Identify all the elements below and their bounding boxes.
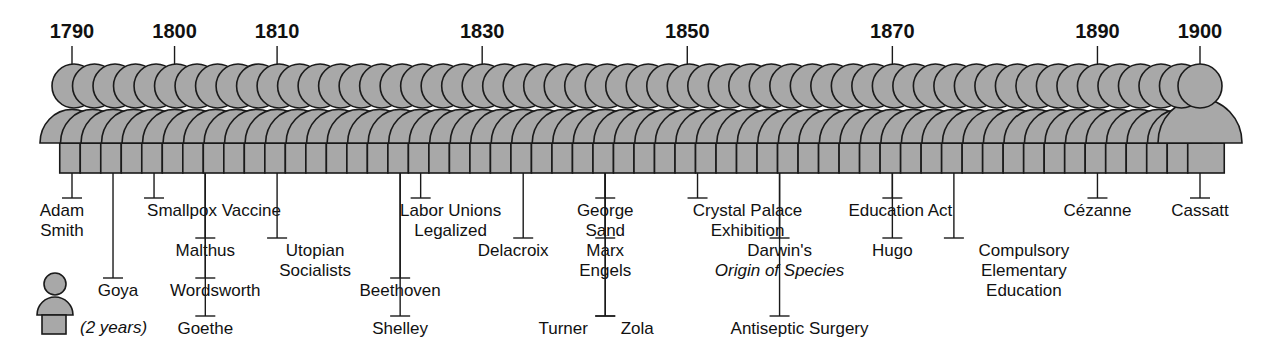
year-label: 1870	[870, 20, 915, 42]
event-crystal-palace: Crystal PalaceExhibition	[688, 173, 803, 240]
figure-body-icon	[285, 143, 306, 173]
figure-body-icon	[367, 143, 388, 173]
legend-label: (2 years)	[80, 318, 147, 337]
figure-body-icon	[429, 143, 450, 173]
event-label: Goethe	[177, 319, 233, 338]
figure-body-icon	[778, 143, 799, 173]
event-label: Turner	[539, 319, 589, 338]
legend-figure-shoulders-icon	[37, 297, 73, 315]
figure-body-icon	[716, 143, 737, 173]
year-markers: 17901800181018301850187018901900	[50, 20, 1223, 64]
event-label: Legalized	[414, 221, 487, 240]
event-label: Socialists	[279, 261, 351, 280]
figure-body-icon	[983, 143, 1004, 173]
event-label: Delacroix	[478, 241, 549, 260]
figure-body-icon	[860, 143, 881, 173]
figure-body-icon	[1003, 143, 1024, 173]
figure-body-icon	[613, 143, 634, 173]
figure-body-icon	[552, 143, 573, 173]
event-compulsory-education: CompulsoryElementaryEducation	[944, 173, 1070, 300]
figure-body-icon	[757, 143, 778, 173]
figure-body-icon	[901, 143, 922, 173]
event-cezanne: Cézanne	[1063, 173, 1131, 220]
figure-body-icon	[572, 143, 593, 173]
figure-body-icon	[634, 143, 655, 173]
event-cassatt: Cassatt	[1171, 173, 1229, 220]
figure-body-icon	[798, 143, 819, 173]
event-education-act: Education Act	[848, 173, 952, 220]
event-label: Crystal Palace	[693, 201, 803, 220]
figure-body-icon	[121, 143, 142, 173]
event-label: Zola	[621, 319, 655, 338]
event-utopian-socialists: UtopianSocialists	[267, 173, 351, 280]
event-label: Wordsworth	[170, 281, 260, 300]
figure-body-icon	[80, 143, 101, 173]
figure-body-icon	[1126, 143, 1147, 173]
legend-figure-head-icon	[44, 273, 66, 295]
year-label: 1800	[152, 20, 197, 42]
figure-body-icon	[1188, 143, 1225, 173]
figure-body-icon	[388, 143, 409, 173]
event-label: Smallpox Vaccine	[147, 201, 281, 220]
figure-body-icon	[962, 143, 983, 173]
figure-body-icon	[470, 143, 491, 173]
figure-body-icon	[183, 143, 204, 173]
figure-body-icon	[1085, 143, 1106, 173]
event-label: Adam	[40, 201, 84, 220]
figure-body-icon	[655, 143, 676, 173]
figure-body-icon	[101, 143, 122, 173]
figure-body-icon	[819, 143, 840, 173]
figure-body-icon	[696, 143, 717, 173]
figure-body-icon	[142, 143, 163, 173]
figure-body-icon	[347, 143, 368, 173]
event-label: Shelley	[372, 319, 428, 338]
people-figures-row	[40, 64, 1242, 173]
figure-body-icon	[265, 143, 286, 173]
year-label: 1810	[255, 20, 300, 42]
year-label: 1890	[1075, 20, 1120, 42]
figure-body-icon	[326, 143, 347, 173]
event-label: Goya	[98, 281, 139, 300]
timeline-diagram: 17901800181018301850187018901900 AdamSmi…	[0, 0, 1268, 357]
event-label: Compulsory	[979, 241, 1070, 260]
year-label: 1850	[665, 20, 710, 42]
figure-body-icon	[531, 143, 552, 173]
figure-body-icon	[1167, 143, 1188, 173]
event-label: Smith	[40, 221, 83, 240]
event-labor-unions: Labor UnionsLegalized	[400, 173, 501, 240]
year-label: 1790	[50, 20, 95, 42]
figure-body-icon	[1065, 143, 1086, 173]
figure-body-icon	[1024, 143, 1045, 173]
event-label: Utopian	[286, 241, 345, 260]
year-label: 1900	[1178, 20, 1223, 42]
event-label: Cassatt	[1171, 201, 1229, 220]
legend-figure-body-icon	[42, 315, 66, 334]
figure-body-icon	[737, 143, 758, 173]
figure-body-icon	[675, 143, 696, 173]
event-label: Education Act	[848, 201, 952, 220]
figure-body-icon	[942, 143, 963, 173]
figure-body-icon	[408, 143, 429, 173]
event-smallpox-vaccine: Smallpox Vaccine	[144, 173, 281, 220]
figure-body-icon	[306, 143, 327, 173]
figure-body-icon	[1106, 143, 1127, 173]
figure-body-icon	[921, 143, 942, 173]
figure-body-icon	[203, 143, 224, 173]
figure-body-icon	[224, 143, 245, 173]
figure-body-icon	[244, 143, 265, 173]
event-label: Cézanne	[1063, 201, 1131, 220]
figure-body-icon	[1147, 143, 1168, 173]
figure-body-icon	[490, 143, 511, 173]
figure-body-icon	[449, 143, 470, 173]
event-labels: AdamSmithGoyaSmallpox VaccineMalthusWord…	[40, 173, 1229, 338]
event-label: Hugo	[872, 241, 913, 260]
figure-body-icon	[1044, 143, 1065, 173]
year-label: 1830	[460, 20, 505, 42]
figure-head-icon	[1178, 64, 1222, 108]
figure-body-icon	[511, 143, 532, 173]
figure-body-icon	[162, 143, 183, 173]
figure-body-icon	[880, 143, 901, 173]
event-label: Exhibition	[711, 221, 785, 240]
event-adam-smith: AdamSmith	[40, 173, 84, 240]
event-label: Labor Unions	[400, 201, 501, 220]
